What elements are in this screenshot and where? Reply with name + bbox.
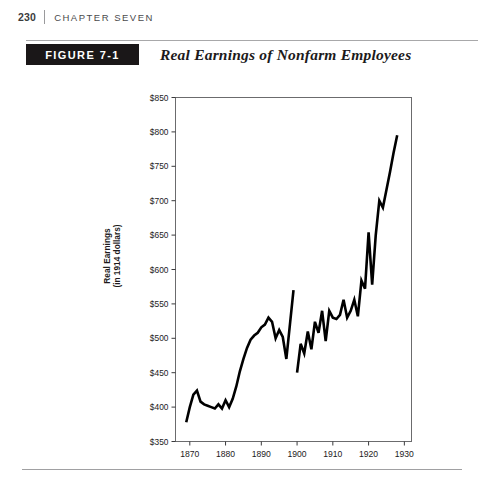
figure-number-tab: FIGURE 7-1	[26, 44, 139, 65]
data-series	[186, 135, 397, 422]
running-head: 230 CHAPTER SEVEN	[18, 9, 154, 25]
page-number: 230	[18, 11, 36, 23]
figure-bottom-rule	[22, 469, 462, 470]
y-tick-label: $600	[150, 265, 169, 275]
y-axis-title-line2: (in 1914 dollars)	[112, 224, 122, 287]
y-tick-label: $850	[150, 93, 169, 103]
y-tick-label: $450	[150, 368, 169, 378]
y-tick-label: $550	[150, 299, 169, 309]
x-axis-tick-labels: 1870188018901900191019201930	[180, 449, 414, 459]
y-tick-label: $750	[150, 161, 169, 171]
y-tick-label: $400	[150, 402, 169, 412]
plot-frame	[176, 98, 412, 442]
y-axis-tick-labels: $350$400$450$500$550$600$650$700$750$800…	[150, 93, 169, 447]
line-chart: $350$400$450$500$550$600$650$700$750$800…	[0, 0, 484, 483]
y-tick-label: $500	[150, 333, 169, 343]
series-line	[297, 135, 397, 372]
running-head-divider	[44, 10, 45, 24]
x-axis-ticks	[190, 442, 405, 446]
x-tick-label: 1910	[323, 449, 342, 459]
y-tick-label: $650	[150, 230, 169, 240]
x-tick-label: 1920	[359, 449, 378, 459]
y-tick-label: $700	[150, 196, 169, 206]
x-tick-label: 1930	[395, 449, 414, 459]
x-tick-label: 1890	[252, 449, 271, 459]
x-tick-label: 1870	[180, 449, 199, 459]
figure-number-label: FIGURE 7-1	[45, 49, 120, 61]
y-tick-label: $800	[150, 127, 169, 137]
y-axis-ticks	[172, 98, 176, 442]
figure-page: 230 CHAPTER SEVEN FIGURE 7-1 Real Earnin…	[0, 0, 484, 483]
x-tick-label: 1900	[288, 449, 307, 459]
figure-title: Real Earnings of Nonfarm Employees	[160, 44, 411, 65]
y-axis-title-line1: Real Earnings	[102, 228, 112, 284]
chapter-label: CHAPTER SEVEN	[54, 12, 154, 23]
y-axis-title: Real Earnings (in 1914 dollars)	[102, 224, 122, 287]
x-tick-label: 1880	[216, 449, 235, 459]
y-tick-label: $350	[150, 437, 169, 447]
series-line	[186, 290, 293, 422]
figure-top-rule	[26, 40, 478, 41]
figure-header: FIGURE 7-1 Real Earnings of Nonfarm Empl…	[26, 44, 478, 65]
